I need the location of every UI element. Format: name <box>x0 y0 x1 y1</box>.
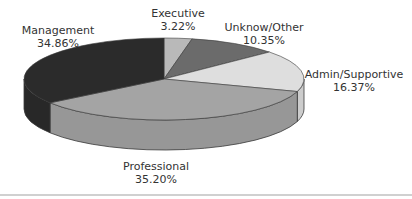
bottom-divider <box>0 194 412 196</box>
label-unknown-other-name: Unknow/Other <box>224 21 303 34</box>
label-executive-pct: 3.22% <box>151 20 205 33</box>
label-admin-supportive-pct: 16.37% <box>305 81 404 94</box>
label-professional-name: Professional <box>123 160 189 173</box>
label-professional: Professional 35.20% <box>123 160 189 186</box>
pie-top <box>24 38 304 120</box>
label-executive: Executive 3.22% <box>151 7 205 33</box>
label-professional-pct: 35.20% <box>123 173 189 186</box>
label-admin-supportive: Admin/Supportive 16.37% <box>305 68 404 94</box>
label-admin-supportive-name: Admin/Supportive <box>305 68 404 81</box>
label-unknown-other-pct: 10.35% <box>224 34 303 47</box>
label-executive-name: Executive <box>151 7 205 20</box>
label-management-pct: 34.86% <box>22 37 94 50</box>
label-management-name: Management <box>22 24 94 37</box>
label-unknown-other: Unknow/Other 10.35% <box>224 21 303 47</box>
label-management: Management 34.86% <box>22 24 94 50</box>
